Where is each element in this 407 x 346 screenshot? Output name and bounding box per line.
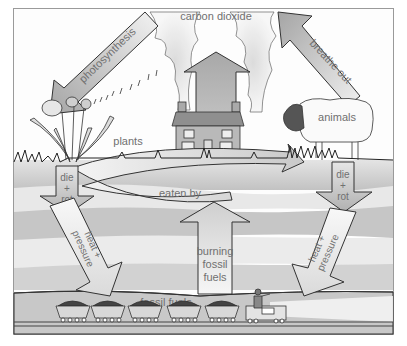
die-rot-left-line1: die (60, 172, 74, 183)
carbon-dioxide-label: carbon dioxide (180, 10, 252, 22)
carbon-cycle-diagram: photosynthesis breathe out carbon dioxid… (0, 0, 407, 346)
animals-label: animals (318, 111, 356, 123)
die-rot-right-line1: die (336, 169, 350, 180)
die-rot-left-line2: + (64, 183, 70, 194)
burning-fossil-fuels-line3: fuels (203, 271, 227, 283)
burning-fossil-fuels-line2: fossil (202, 258, 227, 270)
plants-label: plants (113, 135, 143, 147)
die-rot-right-line2: + (340, 180, 346, 191)
die-rot-right-line3: rot (337, 191, 349, 202)
burning-fossil-fuels-line1: burning (197, 245, 234, 257)
eaten-by-label: eaten by (159, 187, 202, 199)
